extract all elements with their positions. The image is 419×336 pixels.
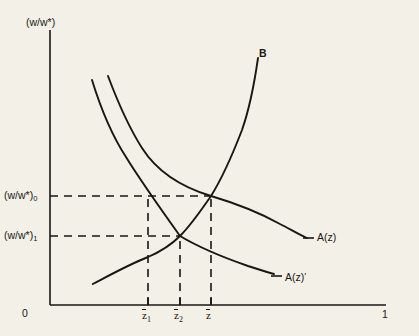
y-tick-label-w0-sub: 0	[33, 194, 37, 203]
curve-label-az-prime-mark: ′	[304, 270, 306, 281]
curve-az	[108, 76, 307, 238]
x-axis-right-label: 1	[382, 309, 388, 320]
x-tick-label-zbar: z	[206, 310, 211, 321]
x-tick-label-z2-sub: 2	[179, 315, 183, 324]
curve-label-az-prime-main: A(z)	[285, 271, 304, 283]
curve-label-az: A(z)	[317, 232, 336, 243]
origin-label: 0	[22, 308, 28, 319]
curve-label-az-main: A(z)	[317, 231, 336, 243]
y-tick-label-w0-main: (w/w*)	[4, 189, 33, 201]
y-tick-label-w1-main: (w/w*)	[4, 229, 33, 241]
x-tick-label-z1-main: z	[142, 310, 147, 321]
curve-label-az-prime: A(z)′	[285, 271, 306, 283]
x-tick-label-z2: z2	[174, 310, 183, 323]
economics-diagram: (w/w*) (w/w*)0 (w/w*)1 0 z1 z2 z 1 B A(z…	[0, 0, 419, 336]
x-tick-label-z1: z1	[142, 310, 151, 323]
y-tick-label-w1: (w/w*)1	[4, 230, 37, 243]
y-tick-label-w0: (w/w*)0	[4, 190, 37, 203]
y-axis-title: (w/w*)	[26, 17, 55, 28]
x-tick-label-z2-main: z	[174, 310, 179, 321]
diagram-canvas	[0, 0, 419, 336]
x-tick-label-z1-sub: 1	[147, 315, 151, 324]
curve-b	[93, 58, 258, 284]
x-tick-label-zbar-main: z	[206, 310, 211, 321]
y-tick-label-w1-sub: 1	[33, 234, 37, 243]
curve-label-b: B	[259, 48, 267, 59]
curve-az-prime	[92, 80, 274, 274]
